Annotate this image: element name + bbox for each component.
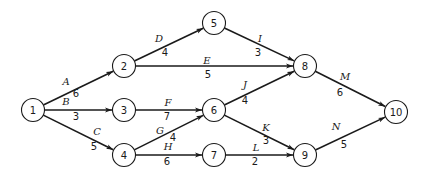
node-10: 10 [385,101,408,124]
duration-label: 6 [337,87,343,98]
activity-label: B [61,96,69,107]
edge-j [224,71,294,105]
edge-n [315,117,385,150]
duration-label: 6 [73,88,79,99]
activity-label: M [339,71,351,82]
duration-label: 7 [164,111,170,122]
edge-m [315,71,385,106]
activity-label: F [164,97,173,108]
duration-label: 2 [252,156,258,167]
node-9: 9 [294,144,317,167]
activity-label: N [331,121,342,132]
node-label: 1 [30,105,36,116]
activity-label: C [93,126,101,137]
duration-label: 5 [341,139,347,150]
duration-label: 4 [162,47,168,58]
node-1: 1 [22,99,45,122]
activity-label: D [154,33,163,44]
activity-label: E [202,55,211,66]
node-7: 7 [203,144,226,167]
duration-label: 3 [263,135,269,146]
node-label: 7 [211,150,217,161]
duration-label: 6 [164,156,170,167]
activity-label: A [61,76,69,87]
activity-label: I [257,33,263,44]
node-3: 3 [113,99,136,122]
node-label: 8 [302,61,308,72]
edge-d [134,28,203,61]
node-5: 5 [203,12,226,35]
node-label: 2 [121,61,127,72]
node-4: 4 [113,144,136,167]
node-8: 8 [294,55,317,78]
activity-label: K [261,122,270,133]
node-6: 6 [203,99,226,122]
node-label: 9 [302,150,308,161]
duration-label: 3 [73,111,79,122]
activity-label: H [163,141,173,152]
duration-label: 3 [255,47,261,58]
activity-label: L [252,142,260,153]
node-label: 6 [211,105,217,116]
network-diagram: 12345678910 A6B3C5D4E5F7G4H6I3J4K3L2M6N5 [0,0,428,178]
duration-label: 4 [242,95,248,106]
node-label: 4 [121,150,127,161]
node-label: 5 [211,18,217,29]
node-label: 3 [121,105,127,116]
activity-label: J [241,79,248,90]
activity-label: G [156,125,164,136]
duration-label: 5 [91,141,97,152]
node-2: 2 [113,55,136,78]
node-label: 10 [390,107,403,118]
duration-label: 5 [205,69,211,80]
